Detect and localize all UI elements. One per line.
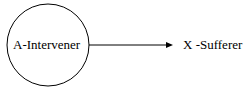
arrowhead-icon bbox=[166, 42, 173, 48]
sufferer-label: X -Sufferer bbox=[183, 38, 242, 51]
intervener-label: A-Intervener bbox=[13, 38, 80, 51]
